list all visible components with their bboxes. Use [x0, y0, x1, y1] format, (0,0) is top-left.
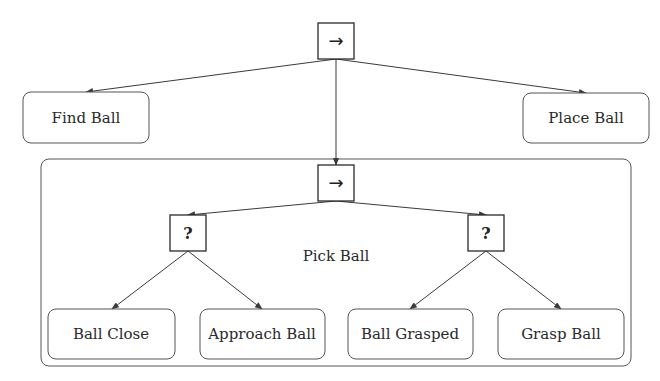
grasp-ball-label: Grasp Ball: [521, 325, 601, 343]
root-sequence-node: →: [318, 23, 354, 59]
find-ball-label: Find Ball: [52, 109, 121, 127]
sequence-arrow-icon: →: [328, 172, 343, 193]
edge-fallback-right-to-grasp-ball: [486, 251, 561, 309]
fallback-right-node: ?: [468, 215, 504, 251]
pick-ball-label: Pick Ball: [303, 247, 370, 265]
edge-fallback-left-to-approach-ball: [188, 251, 262, 309]
approach-ball-node: Approach Ball: [200, 309, 325, 359]
fallback-question-icon: ?: [183, 224, 192, 243]
fallback-left-node: ?: [170, 215, 206, 251]
edge-seq-to-fallback-left: [188, 201, 336, 215]
ball-close-label: Ball Close: [73, 325, 149, 343]
find-ball-node: Find Ball: [23, 92, 149, 143]
sequence-arrow-icon: →: [328, 30, 343, 51]
edge-root-to-place-ball: [336, 59, 586, 93]
place-ball-label: Place Ball: [548, 109, 624, 127]
ball-grasped-label: Ball Grasped: [361, 325, 460, 343]
place-ball-node: Place Ball: [523, 93, 649, 143]
edge-root-to-find-ball: [86, 59, 336, 92]
edge-fallback-right-to-ball-grasped: [410, 251, 486, 309]
ball-grasped-node: Ball Grasped: [348, 309, 473, 359]
fallback-question-icon: ?: [481, 224, 490, 243]
edge-fallback-left-to-ball-close: [112, 251, 188, 309]
edge-seq-to-fallback-right: [336, 201, 486, 215]
pick-ball-sequence-node: →: [318, 165, 354, 201]
ball-close-node: Ball Close: [48, 309, 175, 359]
approach-ball-label: Approach Ball: [207, 325, 316, 343]
behavior-tree-diagram: → Find Ball Place Ball → ? ? Pick Ball B…: [0, 0, 660, 381]
grasp-ball-node: Grasp Ball: [498, 309, 624, 359]
